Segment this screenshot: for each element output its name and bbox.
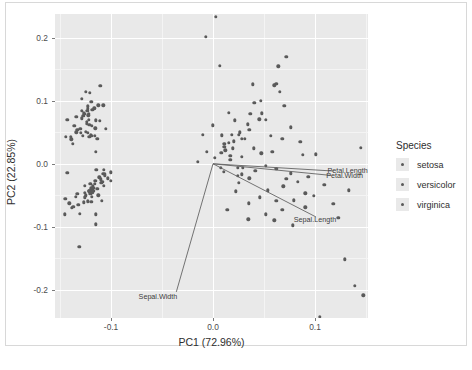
- x-tick-label: 0.0: [207, 322, 219, 332]
- y-tick: [52, 101, 55, 102]
- x-tick-label: -0.1: [104, 322, 118, 332]
- y-tick: [52, 164, 55, 165]
- legend: Species setosaversicolorvirginica: [396, 140, 466, 218]
- loading-vector-label: Sepal.Length: [294, 215, 336, 224]
- loading-vector-arrow: [176, 164, 213, 292]
- legend-point-icon: [401, 203, 404, 206]
- x-tick: [111, 318, 112, 321]
- x-tick-label: 0.1: [309, 322, 321, 332]
- y-tick: [52, 38, 55, 39]
- y-tick-label: -0.2: [34, 285, 48, 295]
- legend-item-label: setosa: [417, 160, 444, 170]
- legend-key-swatch: [396, 198, 409, 211]
- legend-point-icon: [401, 183, 404, 186]
- loading-vector-label: Sepal.Width: [139, 291, 178, 300]
- y-tick-label: 0.2: [36, 33, 48, 43]
- legend-item-label: versicolor: [417, 180, 456, 190]
- legend-item-setosa[interactable]: setosa: [396, 158, 466, 171]
- y-tick-label: -0.1: [34, 222, 48, 232]
- y-axis-title: PC2 (22.85%): [5, 87, 17, 257]
- y-tick: [52, 290, 55, 291]
- y-tick-label: 0.1: [36, 96, 48, 106]
- legend-item-label: virginica: [417, 200, 450, 210]
- loading-vector-label: Petal.Width: [326, 171, 363, 180]
- legend-point-icon: [401, 163, 404, 166]
- legend-key-swatch: [396, 158, 409, 171]
- pca-biplot-figure: Petal.LengthPetal.WidthSepal.LengthSepal…: [0, 0, 472, 370]
- loading-vector-arrow: [213, 164, 316, 217]
- x-axis-title: PC1 (72.96%): [55, 336, 368, 348]
- x-tick: [315, 318, 316, 321]
- legend-key-swatch: [396, 178, 409, 191]
- y-tick-label: 0.0: [36, 159, 48, 169]
- x-tick: [213, 318, 214, 321]
- legend-items: setosaversicolorvirginica: [396, 158, 466, 211]
- legend-item-versicolor[interactable]: versicolor: [396, 178, 466, 191]
- loading-vectors: [55, 14, 368, 318]
- y-tick: [52, 227, 55, 228]
- legend-title: Species: [396, 140, 466, 151]
- plot-panel: Petal.LengthPetal.WidthSepal.LengthSepal…: [55, 14, 368, 318]
- legend-item-virginica[interactable]: virginica: [396, 198, 466, 211]
